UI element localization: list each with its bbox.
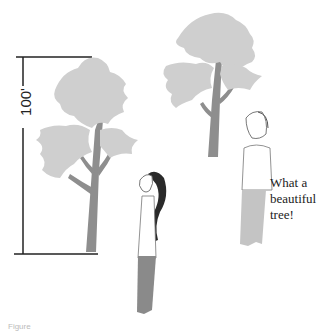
speech-line-3: tree! xyxy=(270,207,332,223)
speech-line-1: What a xyxy=(270,175,332,191)
figure-caption: Figure xyxy=(8,322,31,331)
man-looking-up xyxy=(240,112,272,246)
speech-text: What a beautiful tree! xyxy=(270,175,332,223)
tree-near xyxy=(36,57,138,252)
speech-line-2: beautiful xyxy=(270,191,332,207)
woman-looking-up xyxy=(137,172,166,314)
height-label: 100' xyxy=(16,86,36,118)
tree-far xyxy=(163,13,262,157)
